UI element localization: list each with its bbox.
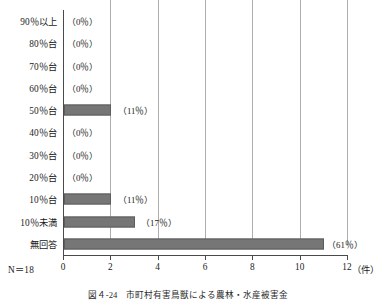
bar-value-label: （11％） [118,193,153,206]
bar-value-label: （11％） [118,104,153,117]
x-tick-2 [110,255,111,260]
x-tick-label: 0 [61,262,66,272]
category-label-text: 60％台 [29,81,57,95]
category-label-text: 10％台 [29,192,57,206]
bar-row: 無回答 （61％） [63,233,347,255]
sample-size-label: N＝18 [8,262,34,276]
category-label: 10％台 [0,188,57,210]
figure-caption: 図４-24 市町村有害鳥獣による農林・水産被害金 [0,288,376,300]
gridline-12 [347,0,348,245]
category-label-text: 20％台 [29,170,57,184]
bar-row: 20％台 （0％） [63,166,347,188]
bar-value-label: （61％） [327,237,363,250]
bar-row: 60％台 （0％） [63,77,347,99]
bar [64,216,135,227]
x-tick-6 [205,255,206,260]
category-label: 40％台 [0,121,57,143]
x-axis-unit-label: （件） [352,262,376,276]
bar [64,238,324,249]
bar-value-label: （0％） [67,148,98,161]
bar-row: 70％台 （0％） [63,55,347,77]
bar [64,194,111,205]
category-label: 20％台 [0,166,57,188]
x-tick-label: 8 [250,262,255,272]
category-label-text: 40％台 [29,125,57,139]
bar-row: 90％以上 （0％） [63,10,347,32]
category-label-text: 無回答 [30,237,57,251]
bar-value-label: （0％） [67,59,98,72]
category-label: 80％台 [0,32,57,54]
category-label: 無回答 [0,233,57,255]
x-tick-label: 12 [342,262,351,272]
bar [64,105,111,116]
category-label: 50％台 [0,99,57,121]
bar-row: 40％台 （0％） [63,121,347,143]
bar-row: 80％台 （0％） [63,32,347,54]
x-tick-label: 6 [203,262,208,272]
bar-value-label: （0％） [67,171,98,184]
bar-value-label: （17％） [141,215,177,228]
bar-row: 50％台 （11％） [63,99,347,121]
bar-value-label: （0％） [67,126,98,139]
x-tick-12 [347,255,348,260]
x-tick-label: 4 [155,262,160,272]
category-label: 90％以上 [0,10,57,32]
x-tick-10 [300,255,301,260]
x-tick-label: 10 [295,262,304,272]
bar-row: 10％台 （11％） [63,188,347,210]
category-label-text: 80％台 [29,36,57,50]
bar-row: 10％未満 （17％） [63,210,347,232]
bar-value-label: （0％） [67,81,98,94]
category-label: 30％台 [0,144,57,166]
bar-value-label: （0％） [67,15,98,28]
category-label-text: 10％未満 [20,215,57,229]
bar-row: 30％台 （0％） [63,144,347,166]
x-tick-label: 2 [108,262,113,272]
category-label-text: 50％台 [29,103,57,117]
category-label-text: 90％以上 [20,14,57,28]
category-label-text: 70％台 [29,59,57,73]
category-label: 60％台 [0,77,57,99]
bar-value-label: （0％） [67,37,98,50]
x-tick-0 [63,255,64,260]
category-label: 70％台 [0,55,57,77]
category-label-text: 30％台 [29,148,57,162]
x-tick-4 [158,255,159,260]
x-tick-8 [252,255,253,260]
category-label: 10％未満 [0,210,57,232]
plot-area: 90％以上 （0％） 80％台 （0％） 70％台 （0％） 60％台 （0％） [63,10,347,255]
